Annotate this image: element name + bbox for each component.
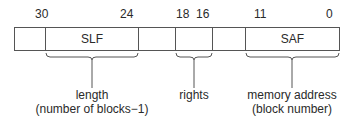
annotation-length: length (number of blocks−1): [22, 88, 162, 116]
annotation-length-line1: length: [22, 88, 162, 102]
annotation-memory-address-line1: memory address: [238, 88, 346, 102]
annotation-rights: rights: [164, 88, 224, 102]
annotation-length-line2: (number of blocks−1): [22, 102, 162, 116]
brace-length: [46, 53, 138, 60]
annotation-memory-address: memory address (block number): [238, 88, 346, 116]
annotation-rights-line1: rights: [164, 88, 224, 102]
annotation-memory-address-line2: (block number): [238, 102, 346, 116]
brace-rights: [176, 53, 212, 60]
brace-memory-address: [246, 53, 339, 60]
